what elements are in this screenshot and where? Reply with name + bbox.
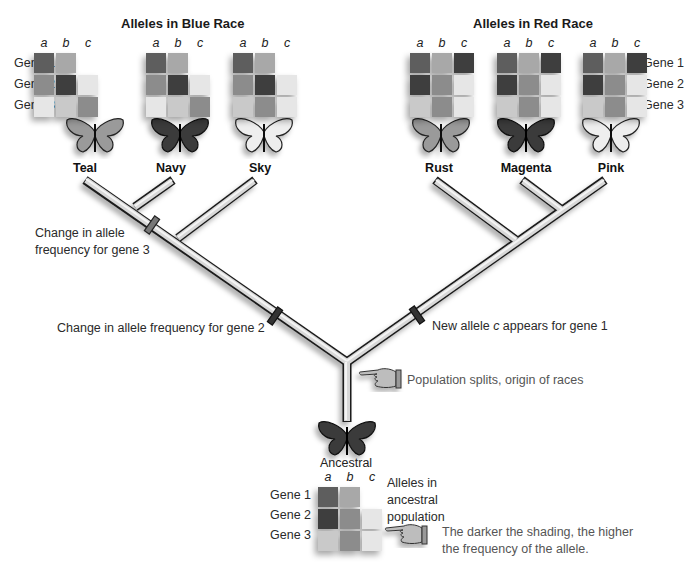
butterfly-icon-pink [583,119,640,152]
allele-cell [362,531,382,551]
allele-cell [56,75,76,95]
allele-grid [410,53,474,117]
allele-cell [168,97,188,117]
allele-cell [318,531,338,551]
allele-label: c [78,36,98,53]
allele-cell [583,53,603,73]
allele-cell [454,53,474,73]
red-race-title: Alleles in Red Race [473,16,593,31]
allele-cell [583,75,603,95]
allele-cell [497,75,517,95]
allele-cell [410,53,430,73]
legend-line: the frequency of the allele. [442,541,633,558]
annotation-gene1-prefix: New allele [432,319,493,333]
allele-cell [432,75,452,95]
allele-cell [627,53,647,73]
allele-cell [78,97,98,117]
annotation-gene1: New allele c appears for gene 1 [432,318,608,335]
annotation-gene1-suffix: appears for gene 1 [499,319,607,333]
allele-cell [168,53,188,73]
gene-label: Gene 1 [270,485,311,505]
allele-grid [583,53,647,117]
allele-cell [56,53,76,73]
allele-panel-teal: abc [34,36,98,117]
ancestral-caption-line: Alleles in [387,475,445,492]
allele-cell [583,97,603,117]
allele-cell [410,97,430,117]
allele-grid [233,53,297,117]
allele-cell [627,97,647,117]
allele-label: c [277,36,297,53]
ancestral-label: Ancestral [320,456,372,470]
allele-cell [146,75,166,95]
allele-cell [318,487,338,507]
allele-grid [34,53,98,117]
allele-cell [432,53,452,73]
allele-label: b [519,36,539,53]
gene-label: Gene 2 [643,74,684,94]
annotation-gene3: Change in allele frequency for gene 3 [35,225,150,259]
race-name-sky: Sky [220,161,300,175]
butterfly-icon-sky [236,119,293,152]
annotation-gene3-line2: frequency for gene 3 [35,242,150,259]
allele-cell [362,509,382,529]
allele-label: c [627,36,647,53]
pointing-hand-icon [359,369,401,388]
ancestral-caption: Alleles in ancestral population [387,475,445,526]
allele-panel-sky: abc [233,36,297,117]
allele-cell [56,97,76,117]
allele-label: b [432,36,452,53]
ancestral-caption-line: population [387,509,445,526]
allele-label: c [362,470,382,487]
allele-panel-magenta: abc [497,36,561,117]
allele-label: b [605,36,625,53]
allele-label: a [233,36,253,53]
allele-cell [497,53,517,73]
allele-cell [627,75,647,95]
allele-label: c [541,36,561,53]
allele-cell [454,97,474,117]
allele-cell [362,487,382,507]
red-gene-labels: Gene 1 Gene 2 Gene 3 [643,53,684,115]
allele-cell [410,75,430,95]
butterfly-icon-ancestral [319,422,376,455]
allele-cell [255,53,275,73]
allele-label: c [190,36,210,53]
allele-cell [519,75,539,95]
allele-label: b [255,36,275,53]
butterfly-icon-rust [413,119,470,152]
allele-cell [454,75,474,95]
race-name-magenta: Magenta [486,161,566,175]
allele-panel-rust: abc [410,36,474,117]
gene-label: Gene 3 [270,525,311,545]
allele-cell [318,509,338,529]
race-name-rust: Rust [399,161,479,175]
allele-cell [340,531,360,551]
allele-label: c [454,36,474,53]
blue-race-title: Alleles in Blue Race [121,16,245,31]
allele-label: b [340,470,360,487]
pointing-hand-icon-legend [385,525,427,544]
allele-label: a [146,36,166,53]
allele-cell [190,53,210,73]
allele-cell [277,75,297,95]
gene-label: Gene 1 [643,53,684,73]
allele-cell [605,97,625,117]
allele-cell [519,97,539,117]
allele-label: a [497,36,517,53]
allele-grid [497,53,561,117]
allele-cell [541,75,561,95]
butterfly-icon-navy [152,119,209,152]
allele-cell [340,509,360,529]
legend-line: The darker the shading, the higher [442,524,633,541]
allele-cell [255,97,275,117]
allele-label: a [318,470,338,487]
allele-cell [78,75,98,95]
legend-text: The darker the shading, the higher the f… [442,524,633,558]
allele-cell [277,53,297,73]
allele-cell [519,53,539,73]
allele-cell [190,75,210,95]
allele-panel-ancestral: abc [318,470,382,551]
ancestral-gene-labels: Gene 1 Gene 2 Gene 3 [270,485,311,545]
allele-label: a [583,36,603,53]
